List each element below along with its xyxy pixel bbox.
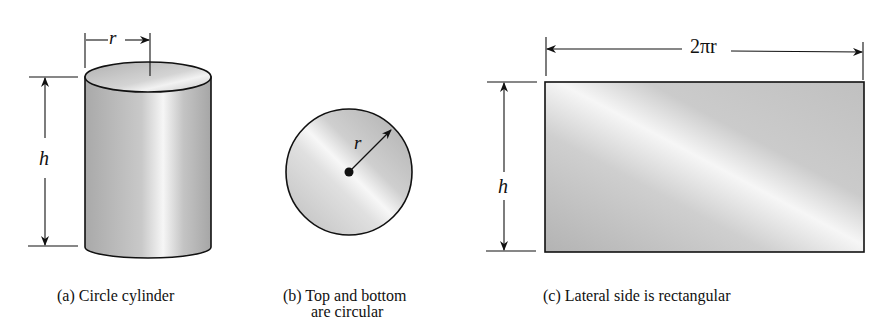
caption-b-line1: (b) Top and bottom [283,287,406,304]
cylinder-body [85,77,211,258]
panel-c-rectangle [486,37,864,252]
rectangle-height-label: h [498,178,508,195]
rectangle-width-label: 2πr [690,38,717,55]
lateral-rectangle [545,82,864,252]
cylinder-top-ellipse [85,62,211,92]
circle-radius-label: r [354,134,361,151]
panel-b-circle [286,109,412,235]
cylinder-diagram [0,0,893,325]
caption-b-line2: are circular [311,303,383,320]
caption-a: (a) Circle cylinder [57,287,174,304]
cylinder-radius-label: r [109,29,116,46]
panel-a-cylinder [28,33,211,258]
cylinder-height-label: h [39,150,49,167]
caption-c: (c) Lateral side is rectangular [543,287,730,304]
